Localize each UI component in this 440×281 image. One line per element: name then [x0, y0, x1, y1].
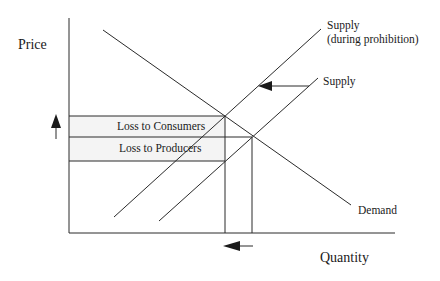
supply-shift-arrow-icon — [258, 81, 272, 91]
price-up-arrow-icon — [51, 114, 61, 128]
loss-to-producers-label: Loss to Producers — [119, 143, 201, 155]
loss-to-consumers-label: Loss to Consumers — [117, 121, 205, 133]
y-axis-label: Price — [18, 38, 47, 52]
demand-label: Demand — [358, 205, 397, 217]
x-axis-label: Quantity — [320, 251, 369, 265]
supply-prohibition-label-line2: (during prohibition) — [327, 34, 419, 46]
quantity-left-arrow-icon — [223, 241, 240, 251]
supply-label: Supply — [323, 76, 356, 88]
supply-prohibition-label-line1: Supply — [327, 20, 360, 32]
